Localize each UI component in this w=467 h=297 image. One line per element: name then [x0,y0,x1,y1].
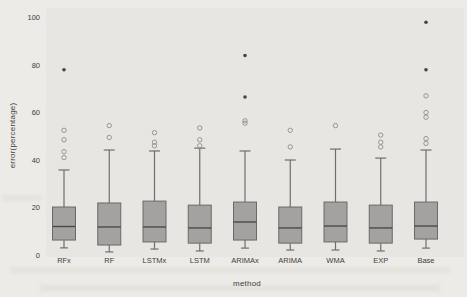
x-category-label: LSTMx [143,256,167,265]
box [324,202,347,242]
box [369,205,392,243]
x-axis-title: method [177,279,317,288]
box [279,207,302,243]
boxplot-chart: 020406080100RFxRFLSTMxLSTMARIMAxARIMAWMA… [0,0,467,297]
y-tick-label: 0 [36,251,40,260]
y-tick-label: 80 [32,61,40,70]
x-category-label: WMA [326,256,344,265]
y-tick-label: 40 [32,156,40,165]
outlier-filled-dot [424,68,428,72]
box [234,202,257,240]
y-tick-label: 60 [32,108,40,117]
x-category-label: ARIMAx [231,256,259,265]
outlier-filled-dot [62,68,66,72]
x-category-label: Base [417,256,434,265]
box [98,203,121,245]
x-category-label: LSTM [190,256,210,265]
box [415,202,438,239]
scanned-page-background: 020406080100RFxRFLSTMxLSTMARIMAxARIMAWMA… [0,0,467,297]
box [143,201,166,242]
outlier-filled-dot [424,20,428,24]
x-category-label: EXP [373,256,388,265]
x-category-label: RF [104,256,114,265]
outlier-filled-dot [243,54,247,58]
outlier-filled-dot [243,95,247,99]
y-tick-label: 20 [32,203,40,212]
box [188,205,211,243]
x-category-label: ARIMA [278,256,302,265]
y-axis-title: error(percentage) [8,66,17,206]
x-category-label: RFx [57,256,71,265]
boxplot-figure: 020406080100RFxRFLSTMxLSTMARIMAxARIMAWMA… [0,0,467,297]
y-tick-label: 100 [27,13,40,22]
box [53,207,76,240]
